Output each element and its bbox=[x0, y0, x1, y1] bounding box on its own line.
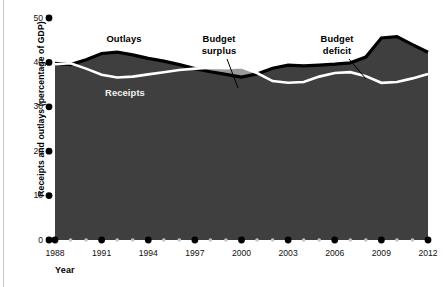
x-tick-dot bbox=[191, 237, 198, 244]
x-tick-label: 2006 bbox=[318, 248, 352, 258]
x-tick-label: 2009 bbox=[364, 248, 398, 258]
x-minor-tick-dot bbox=[364, 238, 368, 242]
x-tick-dot bbox=[331, 237, 338, 244]
x-tick-label: 2003 bbox=[271, 248, 305, 258]
x-tick-label: 1994 bbox=[131, 248, 165, 258]
x-tick-dot bbox=[238, 237, 245, 244]
x-tick-dot bbox=[98, 237, 105, 244]
y-tick-label: 10 bbox=[21, 190, 43, 200]
y-tick-dot bbox=[46, 103, 53, 110]
x-minor-tick-dot bbox=[84, 238, 88, 242]
page-left-rule bbox=[3, 0, 4, 287]
x-minor-tick-dot bbox=[224, 238, 228, 242]
annotation-surplus: surplus bbox=[202, 45, 237, 56]
y-tick-dot bbox=[46, 192, 53, 199]
y-tick-label: 30 bbox=[21, 101, 43, 111]
plot-canvas: OutlaysReceiptsBudgetsurplusBudgetdefici… bbox=[0, 0, 443, 287]
x-minor-tick-dot bbox=[162, 238, 166, 242]
x-minor-tick-dot bbox=[178, 238, 182, 242]
x-tick-label: 1988 bbox=[38, 248, 72, 258]
annotation-budget: Budget bbox=[321, 33, 354, 44]
x-minor-tick-dot bbox=[271, 238, 275, 242]
x-tick-label: 1991 bbox=[85, 248, 119, 258]
x-tick-dot bbox=[378, 237, 385, 244]
y-tick-dot bbox=[46, 148, 53, 155]
figure-area-chart: Receipts and outlays (percentage of GDP)… bbox=[0, 0, 443, 287]
x-axis-title: Year bbox=[55, 265, 75, 275]
y-tick-label: 40 bbox=[21, 57, 43, 67]
y-tick-dot bbox=[46, 59, 53, 66]
x-minor-tick-dot bbox=[69, 238, 73, 242]
x-tick-dot bbox=[52, 237, 59, 244]
y-tick-label: 0 bbox=[21, 235, 43, 245]
x-minor-tick-dot bbox=[395, 238, 399, 242]
y-tick-label: 20 bbox=[21, 146, 43, 156]
x-minor-tick-dot bbox=[302, 238, 306, 242]
y-axis-tick-dots bbox=[46, 15, 53, 244]
y-tick-dot bbox=[46, 15, 53, 22]
x-tick-dot bbox=[425, 237, 432, 244]
x-minor-tick-dot bbox=[209, 238, 213, 242]
x-tick-label: 2000 bbox=[225, 248, 259, 258]
x-minor-tick-dot bbox=[255, 238, 259, 242]
x-tick-dot bbox=[145, 237, 152, 244]
y-tick-dot bbox=[46, 237, 53, 244]
x-tick-dot bbox=[285, 237, 292, 244]
x-minor-tick-dot bbox=[411, 238, 415, 242]
x-minor-tick-dot bbox=[317, 238, 321, 242]
x-tick-label: 1997 bbox=[178, 248, 212, 258]
y-tick-label: 50 bbox=[21, 13, 43, 23]
x-minor-tick-dot bbox=[348, 238, 352, 242]
annotation-deficit: deficit bbox=[323, 45, 351, 56]
x-minor-tick-dot bbox=[115, 238, 119, 242]
annotation-receipts: Receipts bbox=[105, 87, 145, 98]
annotation-outlays: Outlays bbox=[106, 33, 141, 44]
x-minor-tick-dot bbox=[131, 238, 135, 242]
x-tick-label: 2012 bbox=[411, 248, 443, 258]
annotation-budget: Budget bbox=[203, 33, 236, 44]
